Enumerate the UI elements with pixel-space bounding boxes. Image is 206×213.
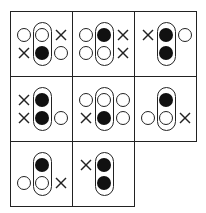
open-circle-icon bbox=[54, 46, 68, 60]
filled-circle-icon bbox=[97, 28, 111, 42]
open-circle-icon bbox=[97, 93, 111, 107]
open-circle-icon bbox=[17, 176, 31, 190]
open-circle-icon bbox=[141, 111, 155, 125]
filled-circle-icon bbox=[35, 158, 49, 172]
open-circle-icon bbox=[35, 28, 49, 42]
grid-cell bbox=[72, 11, 135, 77]
cross-icon bbox=[141, 28, 155, 42]
open-circle-icon bbox=[79, 93, 93, 107]
cross-icon bbox=[116, 46, 130, 60]
open-circle-icon bbox=[79, 28, 93, 42]
open-circle-icon bbox=[178, 28, 192, 42]
filled-circle-icon bbox=[159, 46, 173, 60]
filled-circle-icon bbox=[35, 46, 49, 60]
grid-cell bbox=[134, 76, 197, 142]
grid-cell bbox=[72, 76, 135, 142]
open-circle-icon bbox=[97, 46, 111, 60]
filled-circle-icon bbox=[159, 28, 173, 42]
cross-icon bbox=[17, 46, 31, 60]
filled-circle-icon bbox=[35, 111, 49, 125]
filled-circle-icon bbox=[35, 93, 49, 107]
open-circle-icon bbox=[54, 111, 68, 125]
filled-circle-icon bbox=[97, 176, 111, 190]
grid-cell bbox=[72, 141, 135, 207]
open-circle-icon bbox=[79, 46, 93, 60]
cross-icon bbox=[54, 28, 68, 42]
open-circle-icon bbox=[159, 111, 173, 125]
filled-circle-icon bbox=[97, 111, 111, 125]
grid-cell bbox=[134, 11, 197, 77]
grid-cell bbox=[10, 76, 73, 142]
open-circle-icon bbox=[17, 28, 31, 42]
grid-cell bbox=[10, 141, 73, 207]
cross-icon bbox=[178, 111, 192, 125]
open-circle-icon bbox=[35, 176, 49, 190]
cross-icon bbox=[79, 158, 93, 172]
cross-icon bbox=[17, 111, 31, 125]
open-circle-icon bbox=[116, 111, 130, 125]
filled-circle-icon bbox=[159, 93, 173, 107]
filled-circle-icon bbox=[97, 158, 111, 172]
cross-icon bbox=[79, 111, 93, 125]
cross-icon bbox=[116, 28, 130, 42]
cross-icon bbox=[54, 176, 68, 190]
cross-icon bbox=[17, 93, 31, 107]
open-circle-icon bbox=[116, 93, 130, 107]
grid-cell bbox=[10, 11, 73, 77]
